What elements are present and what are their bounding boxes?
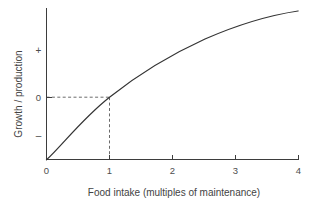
y-axis-label-minus: – bbox=[36, 130, 42, 141]
x-axis-label-3: 3 bbox=[233, 165, 238, 176]
y-axis-label-zero: 0 bbox=[36, 92, 41, 103]
y-axis-label-plus: + bbox=[36, 45, 42, 56]
chart-plot-area: + 0 – 0 1 2 3 4 Food intake (multiples o… bbox=[0, 0, 318, 203]
chart-figure: + 0 – 0 1 2 3 4 Food intake (multiples o… bbox=[0, 0, 318, 203]
x-axis-label-4: 4 bbox=[296, 165, 301, 176]
x-axis-label-1: 1 bbox=[107, 165, 112, 176]
x-axis-label-0: 0 bbox=[44, 165, 49, 176]
growth-production-curve bbox=[47, 11, 299, 160]
x-axis-title: Food intake (multiples of maintenance) bbox=[88, 187, 260, 198]
x-axis-label-2: 2 bbox=[170, 165, 175, 176]
y-axis-title: Growth / production bbox=[13, 50, 24, 137]
